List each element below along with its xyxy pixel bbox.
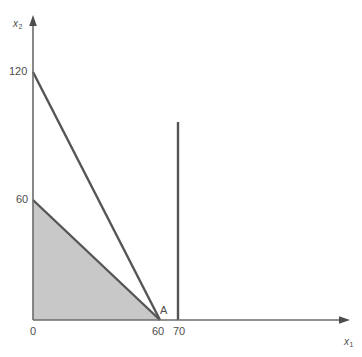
x-axis-tick-60: 60 [152, 326, 164, 337]
x-axis-arrowhead [339, 316, 350, 324]
y-axis-label-subscript: 2 [19, 23, 23, 30]
x-axis-label: x1 [344, 336, 353, 348]
x-axis-label-text: x [344, 336, 349, 347]
y-axis-tick-60: 60 [16, 194, 28, 205]
x-axis-label-subscript: 1 [350, 341, 354, 348]
y-axis-label: x2 [13, 18, 22, 30]
y-axis-arrowhead [29, 15, 37, 26]
point-label-a: A [160, 305, 167, 316]
linear-programming-chart: x2 x1 120 60 0 60 70 A [0, 0, 362, 357]
x-axis-tick-0: 0 [30, 326, 36, 337]
plot-area [0, 0, 362, 357]
y-axis-label-text: x [13, 18, 18, 29]
x-axis-tick-70: 70 [173, 326, 185, 337]
y-axis-tick-120: 120 [9, 66, 27, 77]
